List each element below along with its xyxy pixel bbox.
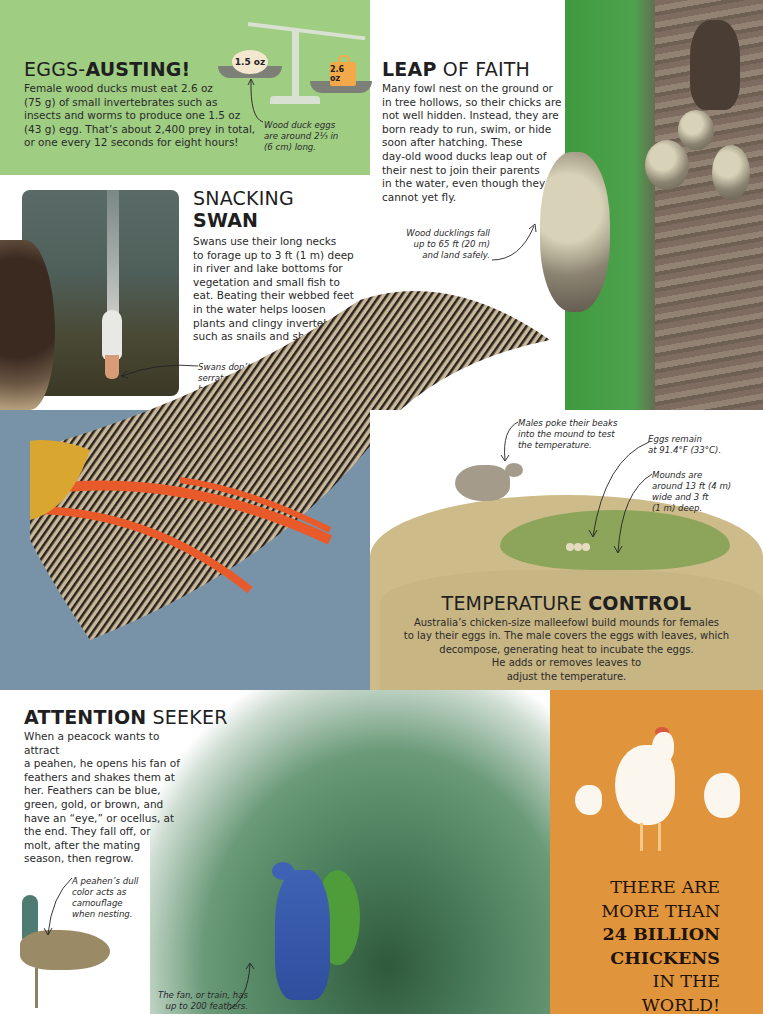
chicken-leg (640, 823, 643, 851)
duckling-in-nest (645, 140, 689, 190)
body-line: in tree hollows, so their chicks are (382, 96, 572, 110)
caption-line: Males poke their beaks (518, 418, 618, 429)
body-line: to forage up to 3 ft (1 m) deep (193, 249, 368, 263)
duckling-fall-caption: Wood ducklings fall up to 65 ft (20 m) a… (380, 228, 490, 261)
body-line: insects and worms to produce one 1.5 oz (24, 109, 264, 123)
body-line: When a peacock wants to attract (24, 730, 194, 757)
body-line: adjust the temperature. (370, 670, 763, 683)
body-line: Swans use their long necks (193, 235, 368, 249)
stat-line: WORLD! (560, 994, 720, 1014)
egg-size-caption: Wood duck eggs are around 2⅓ in (6 cm) l… (264, 120, 338, 153)
body-line: or one every 12 seconds for eight hours! (24, 136, 264, 150)
caption-line: color acts as (72, 887, 138, 898)
body-line: in river and lake bottoms for (193, 262, 368, 276)
body-line: feathers and shakes them at (24, 771, 194, 785)
body-line: decompose, generating heat to incubate t… (370, 643, 763, 656)
body-line: not well hidden. Instead, they are (382, 109, 572, 123)
stat-line-bold: 24 BILLION (603, 924, 720, 944)
title-bold: LEAP (382, 58, 437, 80)
body-line: Female wood ducks must eat 2.6 oz (24, 82, 264, 96)
body-line: green, gold, or brown, and (24, 798, 194, 812)
leap-of-faith-title: LEAP OF FAITH (382, 58, 530, 80)
caption-line: wide and 3 ft (652, 492, 731, 503)
small-chicken (575, 785, 602, 815)
body-line: a peahen, he opens his fan of (24, 757, 194, 771)
caption-line: up to 65 ft (20 m) (380, 239, 490, 250)
tree-hollow (690, 20, 740, 110)
caption-line: Wood duck eggs (264, 120, 338, 131)
title-bold: CONTROL (588, 592, 691, 614)
stat-line: MORE THAN (560, 900, 720, 924)
caption-line: camouflage (72, 898, 138, 909)
arrow-icon (226, 960, 256, 1014)
peahen-leg (35, 968, 38, 1008)
mound-size-caption: Mounds are around 13 ft (4 m) wide and 3… (652, 470, 731, 514)
body-line: cannot yet fly. (382, 191, 572, 205)
stat-line: IN THE (560, 970, 720, 994)
caption-line: Wood ducklings fall (380, 228, 490, 239)
caption-line: (6 cm) long. (264, 142, 338, 153)
body-line: Australia’s chicken-size malleefowl buil… (370, 616, 763, 629)
body-line: in the water, even though they (382, 177, 572, 191)
body-line: He adds or removes leaves to (370, 656, 763, 669)
eggs-austing-body: Female wood ducks must eat 2.6 oz (75 g)… (24, 82, 264, 150)
body-line: day-old wood ducks leap out of (382, 150, 572, 164)
stat-line: THERE ARE (560, 876, 720, 900)
caption-line: and land safely. (380, 250, 490, 261)
temperature-control-title: TEMPERATURE CONTROL (370, 592, 763, 614)
title-light: SNACKING (193, 187, 294, 209)
peahen-caption: A peahen’s dull color acts as camouflage… (72, 876, 138, 920)
attention-seeker-body: When a peacock wants to attract a peahen… (24, 730, 194, 866)
duckling-in-nest (712, 145, 750, 200)
body-line: Many fowl nest on the ground or (382, 82, 572, 96)
caption-line: when nesting. (72, 909, 138, 920)
arrow-icon (44, 876, 74, 938)
mound-egg (582, 543, 590, 551)
body-line: have an “eye,” or ocellus, at (24, 812, 194, 826)
prey-weight-label: 2.6 oz (330, 65, 356, 83)
caption-line: are around 2⅓ in (264, 131, 338, 142)
stat-line-bold: CHICKENS (610, 948, 720, 968)
chicken-leg (658, 823, 661, 851)
body-line: their nest to join their parents (382, 164, 572, 178)
caption-line: at 91.4°F (33°C). (648, 445, 721, 456)
title-light: EGGS- (24, 58, 85, 80)
temperature-control-body: Australia’s chicken-size malleefowl buil… (370, 616, 763, 683)
body-line: soon after hatching. These (382, 136, 572, 150)
peacock-body (275, 870, 330, 1000)
title-bold: AUSTING! (85, 58, 190, 80)
egg-weight-label: 1.5 oz (235, 57, 266, 67)
chicken-head (652, 732, 674, 762)
caption-line: Mounds are (652, 470, 731, 481)
body-line: (43 g) egg. That’s about 2,400 prey in t… (24, 123, 264, 137)
arrow-icon (500, 420, 520, 465)
mound-egg (574, 543, 582, 551)
snacking-swan-title: SNACKING SWAN (193, 187, 294, 231)
eggs-austing-title: EGGS-AUSTING! (24, 58, 190, 80)
scale-base (270, 96, 320, 104)
peacock-fan-illustration (150, 690, 560, 1014)
scale-post (292, 30, 299, 100)
title-light: TEMPERATURE (442, 592, 589, 614)
body-line: the end. They fall off, or (24, 825, 194, 839)
caption-line: Eggs remain (648, 434, 721, 445)
title-bold: SWAN (193, 209, 294, 231)
caption-line: (1 m) deep. (652, 503, 731, 514)
title-bold: ATTENTION (24, 706, 146, 728)
body-line: to lay their eggs in. The male covers th… (370, 629, 763, 642)
duckling-in-nest (678, 110, 714, 150)
caption-line: into the mound to test (518, 429, 618, 440)
body-line: molt, after the mating (24, 839, 194, 853)
malleefowl-head (505, 463, 523, 477)
arrow-icon (246, 76, 266, 126)
chicken-count-statement: THERE ARE MORE THAN 24 BILLION CHICKENS … (560, 876, 720, 1014)
small-chicken (704, 773, 740, 818)
arrow-icon (490, 220, 540, 265)
egg-temperature-caption: Eggs remain at 91.4°F (33°C). (648, 434, 721, 456)
body-line: (75 g) of small invertebrates such as (24, 96, 264, 110)
mound-egg (566, 543, 574, 551)
egg-icon: 1.5 oz (232, 50, 268, 74)
caption-line: A peahen’s dull (72, 876, 138, 887)
peacock-head (272, 862, 294, 880)
leap-of-faith-body: Many fowl nest on the ground or in tree … (382, 82, 572, 204)
